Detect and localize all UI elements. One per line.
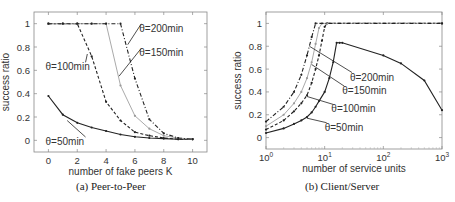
data-point <box>314 43 316 45</box>
data-point <box>265 125 267 127</box>
arrow-icon <box>307 118 327 123</box>
data-point <box>105 101 107 103</box>
data-point <box>306 116 308 118</box>
arrow-icon <box>307 96 333 104</box>
caption-peer-to-peer: (a) Peer-to-Peer <box>76 180 146 192</box>
data-point <box>306 94 308 96</box>
data-point <box>91 23 93 25</box>
data-point <box>148 135 150 137</box>
series-annotation: θ=100min <box>331 103 375 114</box>
data-point <box>47 23 49 25</box>
x-tick-label: 10 <box>187 155 198 166</box>
y-axis-label: success ratio <box>0 52 11 111</box>
x-tick-label: 100 <box>259 151 274 163</box>
y-tick-label: 1 <box>25 18 30 29</box>
data-point <box>163 132 165 134</box>
data-point <box>293 110 295 112</box>
x-tick-label: 102 <box>376 151 391 163</box>
data-point <box>321 39 323 41</box>
figure-canvas: 00.20.40.60.810246810number of fake peer… <box>0 0 455 202</box>
data-point <box>76 23 78 25</box>
data-point <box>283 114 285 116</box>
data-point <box>265 121 267 123</box>
data-point <box>314 68 316 70</box>
data-point <box>382 54 384 56</box>
data-point <box>311 111 313 113</box>
y-axis-label: success ratio <box>232 51 243 110</box>
data-point <box>163 135 165 137</box>
data-point <box>324 91 326 93</box>
y-tick-label: 0.4 <box>249 86 262 97</box>
data-point <box>134 136 136 138</box>
data-point <box>47 95 49 97</box>
chart-client-server: 00.20.40.60.81100101102103number of serv… <box>232 12 449 174</box>
series-line <box>48 24 192 140</box>
x-tick-label: 2 <box>75 155 80 166</box>
data-point <box>339 42 341 44</box>
data-point <box>318 54 320 56</box>
y-tick-label: 0.8 <box>249 41 262 52</box>
series-annotation: θ=200min <box>350 72 394 83</box>
y-tick-label: 0 <box>25 135 30 146</box>
x-tick-label: 8 <box>161 155 166 166</box>
data-point <box>62 114 64 116</box>
data-point <box>314 106 316 108</box>
data-point <box>76 122 78 124</box>
data-point <box>324 26 326 28</box>
data-point <box>91 126 93 128</box>
data-point <box>311 82 313 84</box>
data-point <box>306 54 308 56</box>
data-point <box>62 23 64 25</box>
series-annotation: θ=100min <box>46 61 90 72</box>
data-point <box>311 61 313 63</box>
x-tick-label: 0 <box>46 155 51 166</box>
data-point <box>148 118 150 120</box>
data-point <box>105 23 107 25</box>
data-point <box>441 109 443 111</box>
chart-peer-to-peer: 00.20.40.60.810246810number of fake peer… <box>0 12 207 177</box>
y-tick-label: 0.6 <box>17 65 30 76</box>
y-tick-label: 1 <box>257 18 262 29</box>
data-point <box>300 119 302 121</box>
x-tick-label: 4 <box>103 155 108 166</box>
y-tick-label: 0.6 <box>249 64 262 75</box>
x-axis-label: number of fake peers K <box>69 166 173 177</box>
data-point <box>119 23 121 25</box>
data-point <box>441 22 443 24</box>
data-point <box>336 42 338 44</box>
arrow-icon <box>128 24 142 45</box>
series-line <box>48 24 192 140</box>
y-tick-label: 0.2 <box>17 112 30 123</box>
data-point <box>148 128 150 130</box>
data-point <box>311 36 313 38</box>
data-point <box>148 137 150 139</box>
series-line <box>48 24 192 140</box>
data-point <box>306 77 308 79</box>
data-point <box>119 119 121 121</box>
data-point <box>105 130 107 132</box>
data-point <box>283 106 285 108</box>
data-point <box>265 132 267 134</box>
arrow-icon <box>119 48 141 76</box>
y-tick-label: 0 <box>257 132 262 143</box>
x-axis-label: number of service units <box>302 163 405 174</box>
series-annotation: θ=200min <box>139 23 183 34</box>
data-point <box>341 42 343 44</box>
data-point <box>293 91 295 93</box>
data-point <box>134 131 136 133</box>
data-point <box>314 22 316 24</box>
data-point <box>293 123 295 125</box>
y-tick-label: 0.8 <box>17 42 30 53</box>
data-point <box>328 77 330 79</box>
x-tick-label: 6 <box>132 155 137 166</box>
data-point <box>300 91 302 93</box>
data-point <box>400 62 402 64</box>
data-point <box>119 84 121 86</box>
series-annotation: θ=150min <box>342 85 386 96</box>
series-annotation: θ=50min <box>46 136 85 147</box>
data-point <box>300 102 302 104</box>
data-point <box>134 115 136 117</box>
data-point <box>163 137 165 139</box>
series-annotation: θ=150min <box>139 47 183 58</box>
x-tick-label: 101 <box>318 151 333 163</box>
